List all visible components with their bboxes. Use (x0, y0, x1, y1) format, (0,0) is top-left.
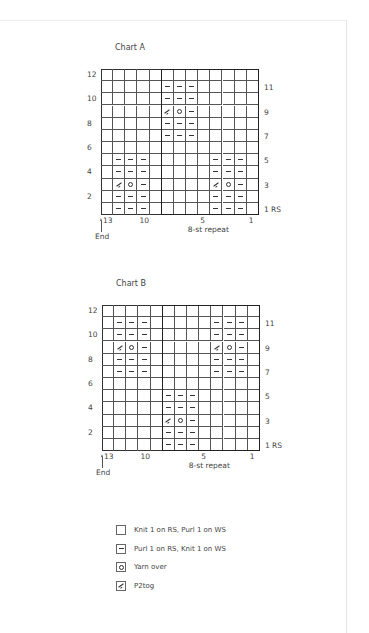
chart-cell (114, 305, 126, 317)
dash-icon (213, 196, 218, 197)
row-number-left: 12 (87, 70, 97, 79)
dash-icon (189, 86, 194, 87)
chart-cell (151, 354, 163, 366)
chart-cell (162, 69, 174, 81)
chart-cell (137, 191, 149, 203)
chart-cell (125, 106, 137, 118)
chart-cell (186, 106, 198, 118)
row-number-right: 3 (265, 417, 270, 426)
chart-cell (186, 142, 198, 154)
chart-cell (211, 342, 223, 354)
chart-cell (126, 317, 138, 329)
chart-cell (198, 81, 210, 93)
chart-cell (223, 130, 235, 142)
chart-cell (175, 305, 187, 317)
chart-cell (247, 106, 259, 118)
chart-cell (198, 69, 210, 81)
chart-cell (101, 142, 113, 154)
chart-cell (114, 402, 126, 414)
chart-cell (137, 179, 149, 191)
chart-cell (175, 390, 187, 402)
dash-icon (142, 322, 147, 323)
dash-icon (227, 359, 232, 360)
chart-cell (187, 427, 199, 439)
dash-icon (239, 359, 244, 360)
legend-item: P2tog (116, 580, 154, 592)
chart-cell (125, 166, 137, 178)
chart-cell (125, 69, 137, 81)
chart-cell (150, 93, 162, 105)
chart-cell (210, 203, 222, 215)
chart-cell (248, 354, 260, 366)
chart-cell (125, 81, 137, 93)
row-number-right: 7 (264, 132, 269, 141)
row-number-right: 9 (264, 108, 269, 117)
chart-cell (236, 402, 248, 414)
circle-icon (227, 345, 232, 350)
chart-cell (114, 427, 126, 439)
column-number: 5 (200, 216, 205, 225)
chart-cell (114, 317, 126, 329)
chart-cell (186, 166, 198, 178)
chart-cell (187, 439, 199, 451)
chart-title: Chart B (116, 279, 146, 288)
chart-cell (186, 154, 198, 166)
chart-cell (210, 106, 222, 118)
dash-icon (239, 322, 244, 323)
chart-cell (211, 378, 223, 390)
chart-cell (150, 81, 162, 93)
end-marker-line (101, 221, 102, 232)
legend-symbol-box (116, 581, 126, 591)
chart-cell (138, 305, 150, 317)
chart-cell (223, 166, 235, 178)
dash-icon (226, 159, 231, 160)
chart-cell (125, 203, 137, 215)
chart-cell (211, 427, 223, 439)
dash-icon (116, 171, 121, 172)
repeat-label: 8-st repeat (189, 461, 230, 470)
chart-cell (125, 179, 137, 191)
chart-cell (138, 427, 150, 439)
chart-cell (102, 342, 114, 354)
chart-cell (187, 342, 199, 354)
chart-cell (163, 402, 175, 414)
slash-icon (214, 345, 219, 349)
chart-cell (174, 106, 186, 118)
end-label: End (95, 232, 109, 241)
chart-cell (163, 439, 175, 451)
chart-cell (198, 93, 210, 105)
dash-icon (189, 111, 194, 112)
column-number: 13 (104, 452, 114, 461)
chart-cell (113, 81, 125, 93)
chart-cell (114, 415, 126, 427)
chart-cell (235, 179, 247, 191)
row-number-left: 6 (88, 379, 93, 388)
chart-cell (198, 191, 210, 203)
chart-cell (224, 427, 236, 439)
chart-cell (236, 390, 248, 402)
chart-cell (162, 93, 174, 105)
chart-cell (199, 317, 211, 329)
dash-icon (189, 123, 194, 124)
chart-cell (174, 81, 186, 93)
chart-cell (235, 106, 247, 118)
dash-icon (165, 86, 170, 87)
chart-cell (162, 130, 174, 142)
chart-cell (224, 305, 236, 317)
chart-cell (162, 118, 174, 130)
slash-icon (118, 583, 123, 587)
chart-cell (210, 166, 222, 178)
chart-cell (151, 427, 163, 439)
row-number-right: 7 (265, 368, 270, 377)
chart-cell (198, 203, 210, 215)
repeat-label: 8-st repeat (188, 225, 229, 234)
chart-cell (175, 329, 187, 341)
chart-cell (113, 191, 125, 203)
chart-cell (247, 81, 259, 93)
chart-cell (211, 402, 223, 414)
chart-cell (187, 378, 199, 390)
dash-icon (238, 171, 243, 172)
dash-icon (213, 159, 218, 160)
chart-cell (236, 317, 248, 329)
dash-icon (190, 395, 195, 396)
